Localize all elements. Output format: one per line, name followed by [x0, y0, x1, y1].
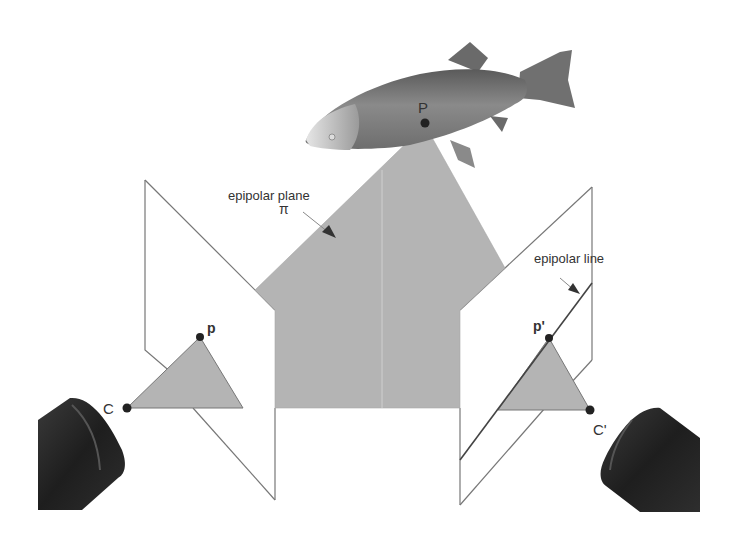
epipolar-line-arrow [560, 278, 580, 294]
point-C [123, 404, 132, 413]
diagram-svg: P epipolar plane π epipolar line p C p' … [0, 0, 738, 543]
label-p-prime: p' [533, 318, 545, 334]
label-C: C [103, 400, 114, 417]
label-epipolar-plane: epipolar plane [228, 188, 310, 203]
label-p: p [207, 320, 216, 336]
camera-right-icon [601, 408, 700, 512]
point-p [196, 333, 204, 341]
epipolar-plane [255, 125, 505, 408]
label-epipolar-line: epipolar line [534, 251, 604, 266]
right-ray-triangle [498, 338, 590, 410]
point-p-prime [545, 334, 553, 342]
image-plane-left [145, 180, 275, 500]
point-C-prime [586, 406, 595, 415]
label-P: P [418, 99, 428, 116]
label-C-prime: C' [593, 421, 607, 438]
label-pi: π [279, 201, 289, 217]
fish-icon [306, 42, 575, 168]
epipolar-line [460, 283, 592, 460]
point-P [421, 119, 430, 128]
epipolar-diagram: P epipolar plane π epipolar line p C p' … [0, 0, 738, 543]
